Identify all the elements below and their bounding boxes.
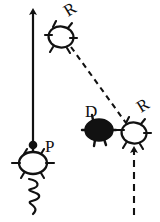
coiled-tail-icon [29,179,39,214]
drug-body [85,119,113,141]
protein-label: P [45,137,54,156]
receptor-link-dashed-line [71,47,126,123]
drug-label: D [85,102,97,121]
receptor-top-label: R [60,0,80,20]
diagram-canvas: R D R [0,0,160,222]
node-drug: D [82,102,116,146]
protein-body [19,152,47,174]
receptor-bottom-right-label: R [133,94,153,116]
schematic-diagram: R D R [0,0,160,222]
signal-dot [29,141,38,150]
connector-group [33,12,134,215]
node-receptor-top: R [45,0,80,53]
node-protein: P [12,137,54,178]
node-receptor-bottom-right: R [117,94,153,149]
